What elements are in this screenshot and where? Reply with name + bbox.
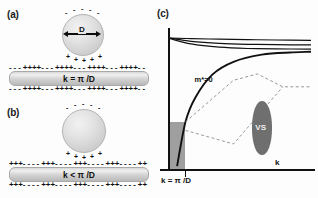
charge-negative: - <box>14 85 17 92</box>
charge-negative: - <box>106 85 109 92</box>
charge-negative: - <box>133 160 136 167</box>
charge-negative: - <box>73 64 76 71</box>
charge-negative: - <box>60 160 63 167</box>
panel-a-label: (a) <box>7 9 19 20</box>
nanoparticle-sphere <box>62 109 106 153</box>
charge-negative: - <box>60 181 63 188</box>
charge-positive: + <box>98 54 102 60</box>
panel-a: (a) - - - - - D + + + + + ---++++---++++… <box>0 0 155 97</box>
charge-negative: - <box>73 7 75 13</box>
charge-negative: - <box>74 102 76 108</box>
charge-negative: - <box>69 181 72 188</box>
charge-negative: - <box>69 160 72 167</box>
charge-negative: - <box>37 160 40 167</box>
diameter-label: D <box>78 26 86 34</box>
charge-negative: - <box>98 105 100 111</box>
charge-negative: - <box>110 85 113 92</box>
dispersion-curves <box>160 18 315 173</box>
charge-negative: - <box>119 181 122 188</box>
charge-negative: - <box>96 160 99 167</box>
charge-positive: + <box>66 54 70 60</box>
panel-b-wire-top-charges: +++----+++----+++----+++----++ <box>9 160 147 167</box>
charge-negative: - <box>129 160 132 167</box>
charge-negative: - <box>92 160 95 167</box>
charge-negative: - <box>55 181 58 188</box>
charge-negative: - <box>133 181 136 188</box>
charge-negative: - <box>110 64 113 71</box>
panel-b-label: (b) <box>7 107 19 118</box>
charge-negative: - <box>138 64 141 71</box>
charge-negative: - <box>78 85 81 92</box>
charge-negative: - <box>18 64 21 71</box>
charge-negative: - <box>106 64 109 71</box>
charge-negative: - <box>66 105 68 111</box>
charge-negative: - <box>124 181 127 188</box>
nanowire-b-label: k < π /D <box>63 170 95 180</box>
charge-negative: - <box>46 64 49 71</box>
charge-negative: - <box>9 85 12 92</box>
curve-upper-band-1 <box>170 38 311 40</box>
panel-a-wire-top-charges: ---++++---++++---++++---++++-- <box>9 64 147 71</box>
panel-b: (b) - - - - - + + + + + +++----+++----++… <box>0 97 155 198</box>
charge-negative: - <box>9 64 12 71</box>
charge-negative: - <box>101 181 104 188</box>
panel-b-wire-bottom-charges: +++----+++----+++----+++----++ <box>9 181 147 188</box>
charge-negative: - <box>46 85 49 92</box>
x-axis-label: k <box>275 158 279 167</box>
charge-negative: - <box>14 64 17 71</box>
charge-negative: - <box>64 160 67 167</box>
panel-c: (c) VS m*=0 k k = π /D <box>155 0 318 198</box>
charge-negative: - <box>89 7 91 13</box>
charge-positive: + <box>66 151 70 157</box>
x-axis <box>160 169 315 171</box>
charge-negative: - <box>41 85 44 92</box>
charge-negative: - <box>81 6 83 12</box>
charge-negative: - <box>97 10 99 16</box>
charge-negative: - <box>27 160 30 167</box>
charge-negative: - <box>101 160 104 167</box>
charge-positive: + <box>98 151 102 157</box>
charge-positive: + <box>142 181 147 188</box>
charge-negative: - <box>90 102 92 108</box>
massless-branch-label: m*=0 <box>195 75 213 84</box>
charge-negative: - <box>37 181 40 188</box>
charge-negative: - <box>32 181 35 188</box>
charge-negative: - <box>96 181 99 188</box>
charge-negative: - <box>92 181 95 188</box>
charge-negative: - <box>23 160 26 167</box>
charge-negative: - <box>83 85 86 92</box>
charge-negative: - <box>115 85 118 92</box>
charge-negative: - <box>18 85 21 92</box>
charge-negative: - <box>83 64 86 71</box>
charge-negative: - <box>82 101 84 107</box>
charge-negative: - <box>124 160 127 167</box>
curve-massless-branch <box>177 52 311 166</box>
charge-negative: - <box>55 160 58 167</box>
charge-negative: - <box>87 160 90 167</box>
charge-negative: - <box>115 64 118 71</box>
charge-negative: - <box>27 181 30 188</box>
charge-negative: - <box>119 160 122 167</box>
charge-negative: - <box>32 160 35 167</box>
charge-negative: - <box>50 64 53 71</box>
charge-negative: - <box>129 181 132 188</box>
charge-negative: - <box>142 85 145 92</box>
charge-negative: - <box>50 85 53 92</box>
charge-negative: - <box>138 85 141 92</box>
charge-positive: + <box>142 160 147 167</box>
charge-negative: - <box>65 10 67 16</box>
charge-negative: - <box>41 64 44 71</box>
x-axis-tick-label: k = π /D <box>161 176 191 185</box>
charge-negative: - <box>73 85 76 92</box>
panel-a-wire-bottom-charges: ---++++---++++---++++---++++-- <box>9 85 147 92</box>
nanowire-a-label: k = π /D <box>63 74 95 84</box>
y-axis <box>168 28 170 171</box>
vs-region-label: VS <box>255 123 266 132</box>
charge-negative: - <box>64 181 67 188</box>
charge-negative: - <box>87 181 90 188</box>
dispersion-plot: VS m*=0 <box>160 18 315 173</box>
charge-negative: - <box>142 64 145 71</box>
charge-negative: - <box>23 181 26 188</box>
figure-root: (a) - - - - - D + + + + + ---++++---++++… <box>0 0 318 198</box>
charge-negative: - <box>78 64 81 71</box>
